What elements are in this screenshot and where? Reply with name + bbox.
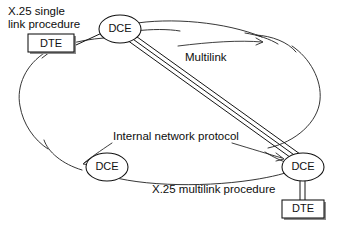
dce-bottom-right-label: DCE [291, 160, 314, 172]
cloud-arc-top [131, 21, 262, 37]
cloud-arc-top-inner [135, 30, 180, 32]
label-internal-network-protocol: Internal network protocol [113, 130, 239, 142]
dte-bottom-label: DTE [292, 202, 314, 214]
label-x25-multilink-procedure: X.25 multilink procedure [152, 183, 275, 195]
dte-top-label: DTE [40, 37, 62, 49]
label-single-link-procedure: X.25 single link procedure [8, 5, 80, 30]
dce-bottom-left-label: DCE [95, 160, 118, 172]
node-dte-top[interactable]: DTE [28, 34, 76, 54]
node-dce-bottom-right[interactable]: DCE [282, 153, 324, 181]
cloud-arc-left [19, 52, 48, 149]
network-diagram-canvas: DTE DCE DCE DCE DTE X.25 single link pro… [0, 0, 348, 228]
node-dte-bottom[interactable]: DTE [282, 200, 326, 220]
cloud-arc-upper-right [256, 35, 296, 52]
single-link-label-line2: link procedure [8, 18, 80, 30]
cloud-arc-lower-left [44, 140, 82, 170]
label-multilink: Multilink [185, 51, 227, 63]
internal-right-arrow-shaft [232, 143, 282, 158]
single-link-label-line1: X.25 single [8, 5, 65, 17]
cloud-arc-right [268, 46, 320, 148]
multilink-arrow-shaft [178, 41, 262, 46]
diagram-root: DTE DCE DCE DCE DTE X.25 single link pro… [0, 0, 348, 228]
multilink-double-link [300, 180, 305, 200]
multilink-callout-arrow [178, 38, 263, 46]
dce-top-label: DCE [108, 22, 131, 34]
node-dce-bottom-left[interactable]: DCE [86, 153, 128, 181]
node-dce-top[interactable]: DCE [99, 15, 141, 43]
